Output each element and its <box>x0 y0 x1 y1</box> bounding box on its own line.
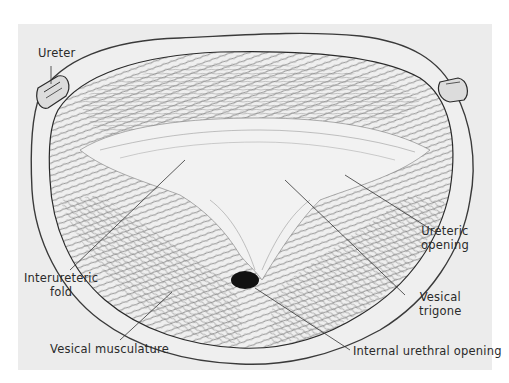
label-ureteric-opening-line1: Ureteric <box>421 224 469 238</box>
bladder-illustration <box>0 0 509 383</box>
label-interureteric-fold: Interureteric fold <box>24 271 98 299</box>
label-ureteric-opening-line2: opening <box>421 238 469 252</box>
label-vesical-trigone: Vesical trigone <box>419 290 462 318</box>
internal-urethral-opening-shape <box>231 271 259 289</box>
label-vesical-musculature: Vesical musculature <box>50 342 169 356</box>
right-ureter-shape <box>438 78 467 102</box>
label-interureteric-fold-line1: Interureteric <box>24 271 98 285</box>
label-vesical-trigone-line2: trigone <box>419 304 462 318</box>
label-internal-urethral-opening: Internal urethral opening <box>353 344 502 358</box>
label-vesical-trigone-line1: Vesical <box>419 290 462 304</box>
label-ureter: Ureter <box>38 46 75 60</box>
label-ureteric-opening: Ureteric opening <box>421 224 469 252</box>
label-interureteric-fold-line2: fold <box>24 285 98 299</box>
